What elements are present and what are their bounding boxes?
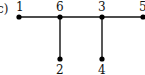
node-label-5: 5 (139, 0, 145, 14)
panel-label: c) (0, 2, 8, 16)
nodes (16, 14, 145, 61)
node-3 (99, 14, 104, 19)
node-label-6: 6 (56, 0, 64, 14)
node-label-2: 2 (56, 63, 64, 75)
tree-diagram: c) 1 6 3 5 2 4 (0, 0, 145, 75)
node-label-4: 4 (98, 63, 106, 75)
edges (19, 17, 145, 59)
node-6 (57, 14, 62, 19)
node-2 (57, 56, 62, 61)
node-labels: 1 6 3 5 2 4 (16, 0, 145, 75)
node-5 (140, 14, 145, 19)
node-label-1: 1 (16, 0, 24, 14)
node-4 (99, 56, 104, 61)
node-1 (16, 14, 21, 19)
node-label-3: 3 (98, 0, 106, 14)
